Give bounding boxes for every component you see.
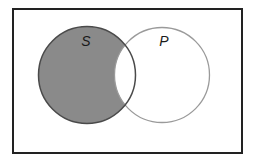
venn-svg: S P — [0, 0, 254, 160]
set-p-label: P — [159, 33, 169, 49]
venn-diagram: S P — [0, 0, 254, 160]
set-s-label: S — [81, 33, 91, 49]
